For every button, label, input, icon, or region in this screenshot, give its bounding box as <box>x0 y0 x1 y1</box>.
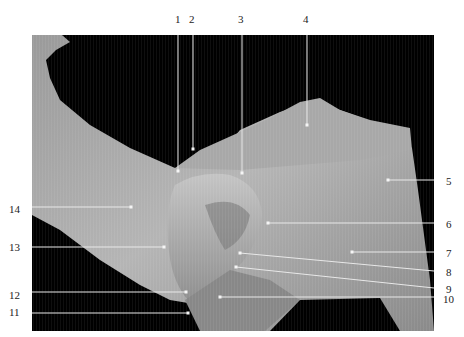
leader-dot-14 <box>130 206 133 209</box>
leader-dot-4 <box>306 124 309 127</box>
label-4: 4 <box>303 13 309 25</box>
label-10: 10 <box>443 293 454 305</box>
leader-dot-6 <box>267 222 270 225</box>
leader-dot-13 <box>163 246 166 249</box>
label-6: 6 <box>446 218 452 230</box>
leader-dot-12 <box>185 291 188 294</box>
anatomy-figure: 1 2 3 4 5 6 7 8 9 10 11 12 13 14 <box>0 0 464 337</box>
label-12: 12 <box>9 289 20 301</box>
label-8: 8 <box>446 266 452 278</box>
leader-dot-7 <box>351 251 354 254</box>
leader-dot-10 <box>219 296 222 299</box>
specimen-photo <box>0 0 464 337</box>
label-11: 11 <box>9 306 20 318</box>
leader-dot-1 <box>177 170 180 173</box>
leader-dot-11 <box>187 312 190 315</box>
label-2: 2 <box>189 13 195 25</box>
leader-dot-2 <box>192 148 195 151</box>
leader-dot-8 <box>239 252 242 255</box>
label-7: 7 <box>446 247 452 259</box>
label-14: 14 <box>9 203 20 215</box>
leader-dot-3 <box>241 172 244 175</box>
leader-dot-5 <box>387 179 390 182</box>
label-1: 1 <box>175 13 181 25</box>
label-3: 3 <box>238 13 244 25</box>
label-13: 13 <box>9 241 20 253</box>
leader-dot-9 <box>235 266 238 269</box>
label-5: 5 <box>446 175 452 187</box>
